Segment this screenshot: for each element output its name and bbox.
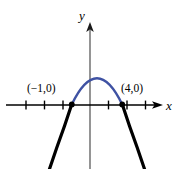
parabola-figure: (−1,0) (4,0) y x [0, 0, 176, 169]
parabola-arc [72, 78, 123, 105]
left-root-point [69, 102, 75, 108]
graph-canvas: (−1,0) (4,0) y x [0, 0, 176, 169]
x-axis-label: x [165, 98, 172, 113]
right-root-label: (4,0) [121, 82, 143, 95]
left-root-label: (−1,0) [27, 82, 56, 95]
y-axis [86, 22, 94, 169]
right-root-point [119, 102, 125, 108]
parabola-right-branch [123, 105, 145, 169]
y-axis-label: y [77, 8, 85, 23]
parabola-left-branch [50, 105, 72, 169]
x-axis [6, 101, 163, 109]
